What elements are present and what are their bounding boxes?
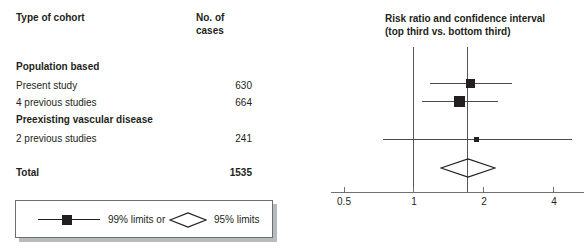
legend-label-99-limits: 99% limits or (108, 214, 165, 225)
x-axis-tick-label-0-5: 0.5 (330, 196, 358, 207)
point-marker-2-previous-studies (474, 137, 479, 142)
table-row-label-total: Total (16, 167, 39, 179)
legend-diamond-marker (169, 211, 207, 229)
x-axis-line (331, 192, 584, 193)
forest-plot-figure: Type of cohort No. of cases Population b… (0, 0, 588, 251)
null-reference-line (413, 47, 414, 192)
table-header-cases-line2: cases (196, 25, 256, 37)
table-row-label-2-previous-studies: 2 previous studies (16, 133, 97, 145)
table-row-label-population-based: Population based (16, 61, 99, 73)
point-marker-4-previous-studies (454, 96, 465, 107)
x-axis-tick-1 (413, 187, 414, 192)
table-row-cases-2-previous-studies: 241 (196, 133, 252, 145)
chart-title-line2: (top third vs. bottom third) (385, 26, 511, 37)
table-row-label-present-study: Present study (16, 80, 77, 92)
table-row-cases-total: 1535 (192, 167, 252, 179)
legend-square-marker (62, 215, 72, 225)
table-row-label-4-previous-studies: 4 previous studies (16, 97, 97, 109)
legend-box: 99% limits or 95% limits (15, 200, 273, 238)
x-axis-tick-label-1: 1 (400, 196, 428, 207)
x-axis-tick-label-2: 2 (470, 196, 498, 207)
x-axis-tick-4 (553, 187, 554, 192)
table-row-cases-4-previous-studies: 664 (196, 97, 252, 109)
chart-title-line1: Risk ratio and confidence interval (385, 13, 545, 24)
chart-title: Risk ratio and confidence interval (top … (385, 12, 545, 38)
pooled-diamond-total (440, 157, 496, 179)
x-axis-tick-2 (483, 187, 484, 192)
table-header-cases-line1: No. of (196, 12, 256, 24)
table-row-label-preexisting-vascular-disease: Preexisting vascular disease (16, 114, 153, 126)
x-axis-tick-0-5 (344, 187, 345, 192)
table-header-type: Type of cohort (16, 12, 85, 24)
legend-label-95-limits: 95% limits (214, 214, 260, 225)
table-row-cases-present-study: 630 (196, 80, 252, 92)
point-marker-present-study (466, 79, 475, 88)
x-axis-tick-label-4: 4 (540, 196, 568, 207)
